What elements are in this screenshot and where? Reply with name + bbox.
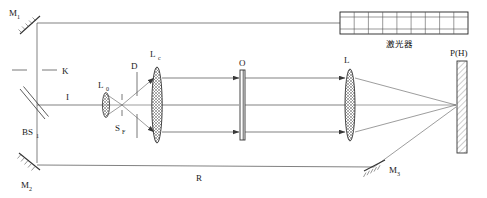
beams-object-to-lens — [245, 78, 345, 132]
lens-l0-label: L — [98, 80, 104, 90]
optical-diagram-figure: M 1 K BS 1 M 2 — [0, 0, 487, 198]
imaging-lens-l: L — [344, 55, 355, 141]
spatial-filter-sf: S F — [115, 94, 126, 135]
converging-beams-to-plate — [355, 78, 456, 132]
lens-l0: L 0 — [98, 80, 110, 118]
mirror-m2: M 2 — [18, 153, 41, 192]
top-beam-path — [37, 23, 340, 163]
mirror-m1-sub: 1 — [17, 14, 20, 20]
mirror-m3-sub: 3 — [397, 171, 400, 177]
beam-splitter-bs1-label: BS — [22, 127, 33, 137]
spatial-filter-sf-sub: F — [122, 129, 126, 135]
mirror-m3: M 3 — [364, 160, 401, 177]
beam-splitter-bs1-sub: 1 — [36, 133, 39, 139]
aperture-d-label: D — [131, 61, 138, 71]
spatial-filter-sf-label: S — [115, 123, 120, 133]
holographic-plate-ph-label: P(H) — [450, 48, 468, 58]
collimated-beams-to-object — [162, 78, 239, 132]
mirror-m1: M 1 — [9, 8, 40, 34]
mirror-m2-label: M — [21, 180, 29, 190]
reference-beam-label: R — [196, 173, 202, 183]
collimating-lens-lc-sub: c — [158, 55, 161, 61]
laser-source: 激光器 — [340, 12, 468, 49]
spatial-filter-rays — [106, 78, 154, 132]
mirror-m2-sub: 2 — [29, 186, 32, 192]
object-o-label: O — [239, 58, 246, 68]
imaging-lens-l-label: L — [344, 55, 350, 65]
object-beam-line: I — [37, 92, 104, 105]
collimating-lens-lc-label: L — [150, 49, 156, 59]
holographic-plate-ph: P(H) — [450, 48, 468, 153]
beam-splitter-bs1: BS 1 — [20, 87, 49, 139]
mirror-m1-label: M — [9, 8, 17, 18]
laser-source-label: 激光器 — [386, 39, 413, 49]
object-beam-label: I — [66, 92, 69, 102]
shutter-k: K — [12, 66, 69, 76]
aperture-d: D — [131, 61, 138, 138]
diagram-canvas: M 1 K BS 1 M 2 — [0, 0, 487, 198]
object-o: O — [239, 58, 246, 140]
mirror-m3-label: M — [389, 165, 397, 175]
shutter-k-label: K — [62, 66, 69, 76]
lens-l0-sub: 0 — [106, 86, 109, 92]
collimating-lens-lc: L c — [150, 49, 162, 143]
